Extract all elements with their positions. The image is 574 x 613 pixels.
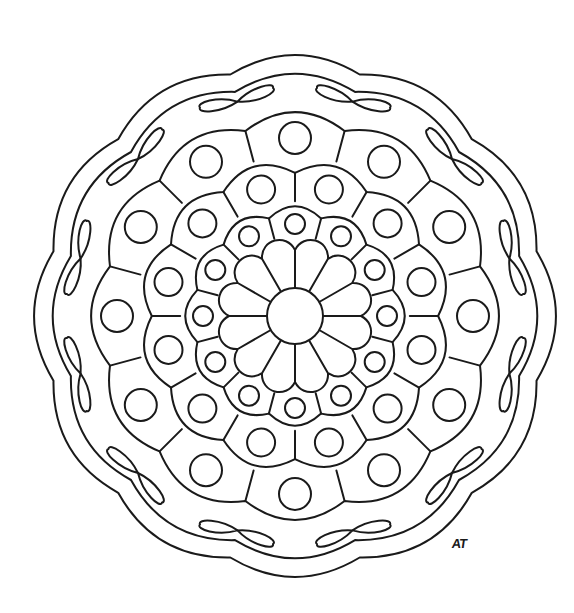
ring-a-circle [239, 226, 259, 246]
ring-c-circle [101, 300, 133, 332]
ring-a-circle [205, 260, 225, 280]
ring-c-circle [279, 478, 311, 510]
mandala-canvas: AT [0, 0, 574, 613]
ring-c-circle [433, 389, 465, 421]
ring-b-circle [315, 176, 343, 204]
ring-a-circle [285, 214, 305, 234]
ring-b-circle [188, 209, 216, 237]
ring-b-circle [408, 336, 436, 364]
mandala-drawing [0, 0, 574, 613]
ring-b-circle [374, 209, 402, 237]
ring-a-circle [285, 398, 305, 418]
ring-b-circle [374, 395, 402, 423]
ring-a-circle [365, 352, 385, 372]
ring-a-circle [365, 260, 385, 280]
ring-c-circle [368, 454, 400, 486]
ring-a-circle [331, 386, 351, 406]
ring-a-circle [193, 306, 213, 326]
ring-c-circle [190, 454, 222, 486]
ring-a-circle [377, 306, 397, 326]
ring-a-circle [205, 352, 225, 372]
ring-b-circle [315, 429, 343, 457]
center-circle [267, 288, 323, 344]
ring-b-circle [247, 176, 275, 204]
artist-signature: AT [451, 536, 467, 551]
ring-c-circle [433, 211, 465, 243]
ring-c-circle [190, 146, 222, 178]
ring-b-circle [155, 336, 183, 364]
ring-c-circle [457, 300, 489, 332]
ring-c-circle [368, 146, 400, 178]
ring-c-circle [125, 211, 157, 243]
center-circle-shape [267, 288, 323, 344]
ring-c-circle [125, 389, 157, 421]
ring-b-circle [247, 429, 275, 457]
ring-c-circle [279, 122, 311, 154]
ring-a-circle [331, 226, 351, 246]
ring-b-circle [408, 268, 436, 296]
ring-a-circle [239, 386, 259, 406]
ring-b-circle [188, 395, 216, 423]
ring-b-circle [155, 268, 183, 296]
